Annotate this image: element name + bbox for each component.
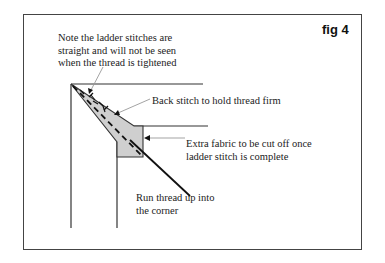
ladder-note-line-2: straight and will not be seen: [58, 45, 176, 58]
thread-line: [130, 140, 190, 196]
ladder-note-label: Note the ladder stitches are straight an…: [58, 32, 176, 70]
extra-fabric-line-1: Extra fabric to be cut off once: [186, 138, 312, 151]
run-thread-label: Run thread up into the corner: [136, 192, 214, 217]
run-thread-line-1: Run thread up into: [136, 192, 214, 205]
ladder-note-line-1: Note the ladder stitches are: [58, 32, 176, 45]
run-thread-line-2: the corner: [136, 205, 214, 218]
figure-label: fig 4: [322, 22, 349, 37]
extra-fabric-label: Extra fabric to be cut off once ladder s…: [186, 138, 312, 163]
back-stitch-label: Back stitch to hold thread firm: [152, 95, 281, 108]
ladder-note-line-3: when the thread is tightened: [58, 57, 176, 70]
extra-fabric-line-2: ladder stitch is complete: [186, 151, 312, 164]
